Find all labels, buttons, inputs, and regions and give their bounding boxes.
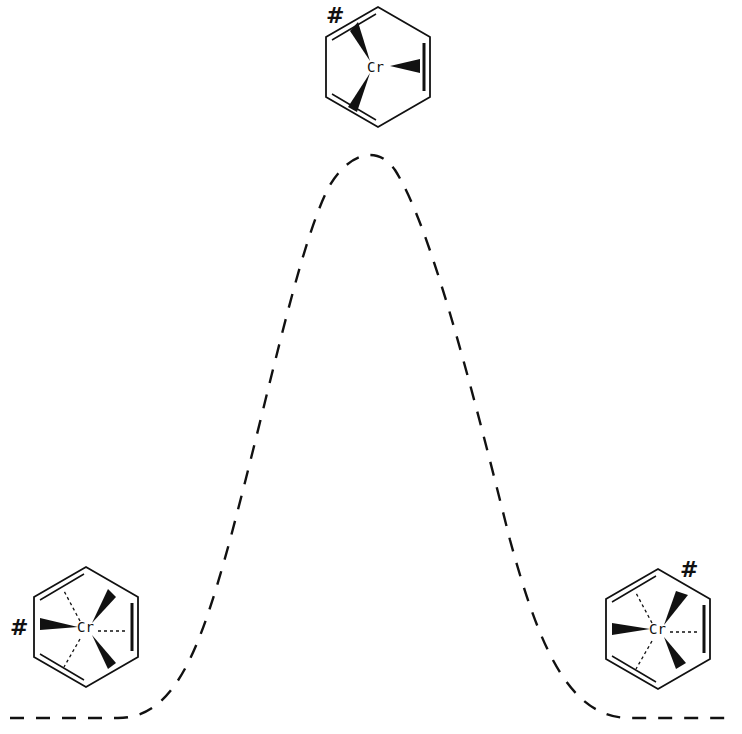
marker-hash: #: [326, 3, 344, 28]
diagram-svg: Cr # Cr # Cr #: [0, 0, 742, 734]
marker-hash: #: [10, 615, 28, 640]
chromium-label: Cr: [77, 619, 94, 635]
energy-curve: [10, 155, 735, 718]
structure-top: Cr #: [326, 3, 430, 127]
energy-profile-diagram: Cr # Cr # Cr #: [0, 0, 742, 734]
chromium-label: Cr: [649, 621, 666, 637]
marker-hash: #: [680, 557, 698, 582]
chromium-label: Cr: [367, 59, 384, 75]
structure-right: Cr #: [606, 557, 710, 689]
structure-left: Cr #: [10, 567, 138, 687]
